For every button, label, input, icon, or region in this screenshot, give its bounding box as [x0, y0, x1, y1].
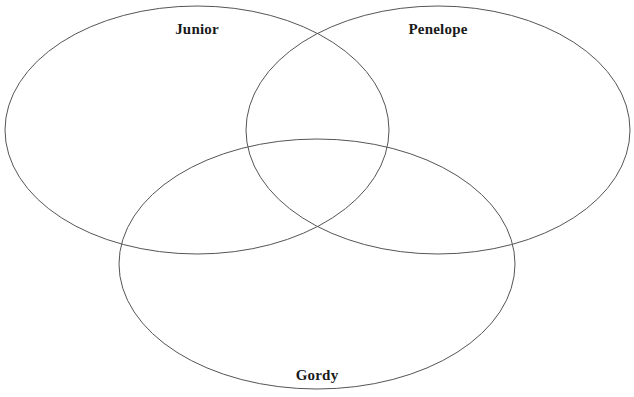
- set-label-junior: Junior: [175, 22, 219, 37]
- set-label-penelope: Penelope: [408, 22, 467, 37]
- set-circle-junior[interactable]: [5, 6, 389, 254]
- set-label-gordy: Gordy: [296, 368, 339, 383]
- set-circle-gordy[interactable]: [119, 139, 515, 389]
- venn-diagram-container: Junior Penelope Gordy: [0, 0, 634, 397]
- set-circle-penelope[interactable]: [246, 6, 630, 254]
- venn-diagram-canvas: [0, 0, 634, 397]
